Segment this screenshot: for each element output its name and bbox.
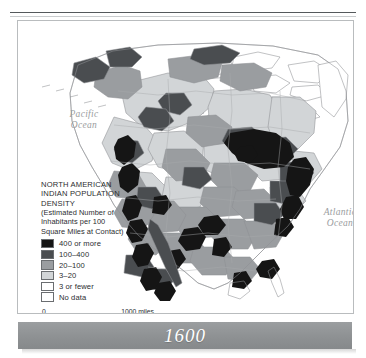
pacific-line-2: Ocean — [71, 120, 97, 130]
page-top-rule — [10, 12, 356, 13]
legend-label-no-data: No data — [59, 293, 86, 302]
atlantic-line-2: Ocean — [327, 218, 353, 228]
legend-label-100-400: 100–400 — [59, 250, 89, 259]
legend-swatch-400-or-more — [41, 239, 54, 248]
legend-swatch-100-400 — [41, 250, 54, 259]
legend-label-20-100: 20–100 — [59, 261, 85, 270]
legend-item-3-20: 3–20 — [41, 271, 157, 281]
map-legend: NORTH AMERICAN INDIAN POPULATION DENSITY… — [41, 180, 157, 303]
legend-label-400-or-more: 400 or more — [59, 239, 101, 248]
map-page: .o{fill:none;stroke:#8d9093;stroke-width… — [0, 0, 366, 358]
atlantic-ocean-label: Atlantic Ocean — [310, 207, 354, 229]
legend-item-3-or-fewer: 3 or fewer — [41, 282, 157, 292]
legend-class-list: 400 or more 100–400 20–100 3–20 3 or few… — [41, 239, 157, 302]
legend-label-3-20: 3–20 — [59, 271, 76, 280]
legend-subtitle-line-3: Square Miles at Contact) — [41, 227, 157, 236]
pacific-line-1: Pacific — [69, 109, 98, 119]
legend-item-100-400: 100–400 — [41, 250, 157, 260]
legend-item-20-100: 20–100 — [41, 260, 157, 270]
map-frame: .o{fill:none;stroke:#8d9093;stroke-width… — [17, 20, 354, 314]
legend-title-line-3: DENSITY — [41, 199, 157, 208]
banner-drop-shadow — [22, 349, 356, 354]
legend-item-400-or-more: 400 or more — [41, 239, 157, 249]
legend-swatch-no-data — [41, 292, 54, 301]
legend-swatch-3-or-fewer — [41, 282, 54, 291]
page-top-rule-thin — [10, 16, 356, 17]
map-scale-bar: 0 1000 miles 0 1000 kilometers — [42, 308, 154, 314]
year-banner: 1600 — [18, 322, 352, 349]
legend-swatch-3-20 — [41, 271, 54, 280]
pacific-ocean-label: Pacific Ocean — [54, 109, 114, 131]
legend-title: NORTH AMERICAN INDIAN POPULATION DENSITY — [41, 180, 157, 208]
scale-miles-max: 1000 miles — [121, 308, 154, 314]
legend-title-line-2: INDIAN POPULATION — [41, 189, 157, 198]
year-banner-label: 1600 — [164, 325, 206, 347]
legend-title-line-1: NORTH AMERICAN — [41, 180, 157, 189]
legend-subtitle-line-2: Inhabitants per 100 — [41, 217, 157, 226]
legend-subtitle: (Estimated Number of Inhabitants per 100… — [41, 208, 157, 236]
legend-subtitle-line-1: (Estimated Number of — [41, 208, 157, 217]
scale-miles-row: 0 1000 miles — [42, 308, 154, 314]
legend-label-3-or-fewer: 3 or fewer — [59, 282, 94, 291]
scale-miles-zero: 0 — [42, 308, 46, 314]
legend-item-no-data: No data — [41, 292, 157, 302]
legend-swatch-20-100 — [41, 260, 54, 269]
atlantic-line-1: Atlantic — [324, 207, 354, 217]
